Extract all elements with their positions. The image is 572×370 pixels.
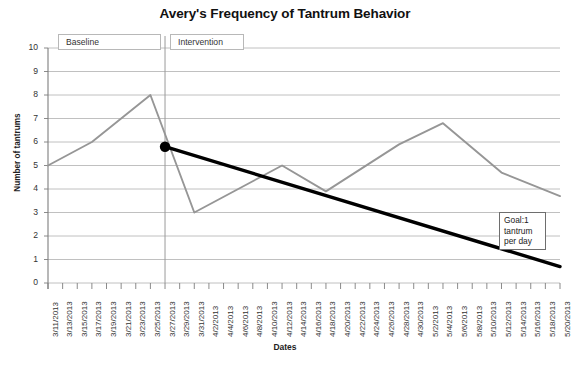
y-tick-label: 6 xyxy=(16,137,38,146)
x-tick-label: 3/29/2013 xyxy=(183,301,191,337)
x-tick-label: 5/14/2013 xyxy=(520,301,528,337)
x-tick-label: 3/25/2013 xyxy=(154,301,162,337)
x-tick-label: 4/2/2013 xyxy=(212,306,220,337)
x-tick-label: 3/11/2013 xyxy=(52,302,60,337)
x-tick-label: 4/14/2013 xyxy=(300,301,308,337)
y-tick-label: 5 xyxy=(16,161,38,170)
x-tick-label: 5/20/2013 xyxy=(564,301,572,337)
y-axis-title: Number of tantrums xyxy=(13,93,22,213)
x-tick-label: 5/10/2013 xyxy=(490,301,498,337)
x-tick-label: 4/26/2013 xyxy=(388,301,396,337)
y-tick-label: 3 xyxy=(16,208,38,217)
x-tick-label: 4/20/2013 xyxy=(344,301,352,337)
y-tick-label: 1 xyxy=(16,255,38,264)
x-tick-label: 4/22/2013 xyxy=(359,301,367,337)
baseline-phase-label: Baseline xyxy=(58,34,161,50)
x-tick-label: 4/30/2013 xyxy=(417,301,425,337)
data-series-lines xyxy=(48,95,560,267)
x-tick-label: 3/23/2013 xyxy=(139,301,147,337)
x-tick-label: 4/28/2013 xyxy=(403,301,411,337)
x-tick-label: 5/6/2013 xyxy=(461,306,469,337)
x-tick-label: 5/2/2013 xyxy=(432,306,440,337)
x-tick-label: 4/24/2013 xyxy=(373,301,381,337)
y-tick-label: 10 xyxy=(16,43,38,52)
x-tick-label: 4/8/2013 xyxy=(256,306,264,337)
x-tick-label: 3/13/2013 xyxy=(66,301,74,337)
x-tick-label: 4/16/2013 xyxy=(315,301,323,337)
x-tick-label: 4/6/2013 xyxy=(242,306,250,337)
x-tick-label: 5/18/2013 xyxy=(549,301,557,337)
x-tick-label: 3/27/2013 xyxy=(169,301,177,337)
y-tick-label: 9 xyxy=(16,67,38,76)
x-tick-label: 3/19/2013 xyxy=(110,301,118,337)
y-tick-label: 7 xyxy=(16,114,38,123)
x-tick-label: 4/10/2013 xyxy=(271,301,279,337)
data-series-markers xyxy=(160,142,170,152)
x-tick-label: 4/4/2013 xyxy=(227,306,235,337)
x-tick-label: 4/18/2013 xyxy=(329,301,337,337)
x-axis-title: Dates xyxy=(0,342,570,352)
goal-annotation: Goal:1 tantrum per day xyxy=(499,212,546,250)
x-tick-label: 5/12/2013 xyxy=(505,301,513,337)
gridlines xyxy=(48,48,560,283)
x-tick-label: 5/16/2013 xyxy=(534,301,542,337)
y-tick-label: 4 xyxy=(16,184,38,193)
x-axis-ticks xyxy=(48,283,560,289)
x-tick-label: 3/15/2013 xyxy=(81,301,89,337)
x-tick-label: 5/4/2013 xyxy=(446,306,454,337)
x-tick-label: 3/31/2013 xyxy=(198,301,206,337)
trend-start-marker xyxy=(160,142,170,152)
chart-title: Avery's Frequency of Tantrum Behavior xyxy=(0,6,570,21)
y-tick-label: 0 xyxy=(16,278,38,287)
x-tick-label: 4/12/2013 xyxy=(286,301,294,337)
intervention-phase-label: Intervention xyxy=(170,34,244,50)
y-tick-label: 8 xyxy=(16,90,38,99)
series-line xyxy=(48,95,560,213)
x-tick-label: 5/8/2013 xyxy=(476,306,484,337)
x-tick-label: 3/21/2013 xyxy=(125,301,133,337)
y-tick-label: 2 xyxy=(16,231,38,240)
x-tick-label: 3/17/2013 xyxy=(95,301,103,337)
